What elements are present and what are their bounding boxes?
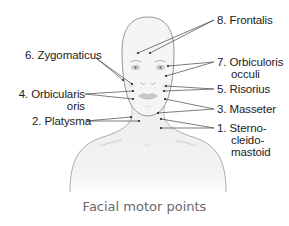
- point-masseter-2: [157, 112, 159, 114]
- point-sternocleidomastoid-1: [160, 118, 162, 120]
- label-platysma-text: 2. Platysma: [32, 115, 91, 127]
- label-orbicularis-oris-line1: 4. Orbicularis: [12, 88, 85, 100]
- label-risorius-text: 5. Risorius: [217, 83, 270, 95]
- point-masseter-1: [164, 98, 166, 100]
- point-sternocleidomastoid-2: [160, 127, 162, 129]
- label-orbicularis-oculi: 7. Orbiculoris occuli: [217, 56, 283, 80]
- label-frontalis-text: 8. Frontalis: [217, 14, 273, 26]
- label-zygomaticus: 6. Zygomaticus: [25, 49, 102, 61]
- label-masseter: 3. Masseter: [217, 103, 276, 115]
- label-zygomaticus-text: 6. Zygomaticus: [25, 49, 102, 61]
- point-frontalis-1: [137, 52, 139, 54]
- point-orbicularis-oris-2: [132, 98, 134, 100]
- label-sternocleidomastoid: 1. Sterno- cleido- mastoid: [217, 122, 271, 158]
- point-orbicularis-oris-1: [132, 90, 134, 92]
- point-platysma-1: [130, 116, 132, 118]
- point-risorius-2: [163, 90, 165, 92]
- point-risorius-1: [165, 85, 167, 87]
- point-zygomaticus-1: [122, 79, 124, 81]
- label-sternocleidomastoid-line2: cleido-: [217, 134, 271, 146]
- point-orbicularis-oculi-2: [165, 75, 167, 77]
- label-orbicularis-oris-line2: oris: [12, 100, 85, 112]
- point-frontalis-2: [149, 52, 151, 54]
- label-orbicularis-oris: 4. Orbicularis oris: [12, 88, 85, 112]
- point-orbicularis-oculi-1: [167, 65, 169, 67]
- label-risorius: 5. Risorius: [217, 83, 270, 95]
- label-sternocleidomastoid-line1: 1. Sterno-: [217, 122, 271, 134]
- head: [122, 17, 174, 116]
- facial-motor-points-figure: 8. Frontalis 7. Orbiculoris occuli 5. Ri…: [0, 0, 289, 226]
- label-orbicularis-oculi-line1: 7. Orbiculoris: [217, 56, 283, 68]
- figure-caption: Facial motor points: [0, 199, 289, 214]
- label-frontalis: 8. Frontalis: [217, 14, 273, 26]
- point-zygomaticus-2: [131, 83, 133, 85]
- label-masseter-text: 3. Masseter: [217, 103, 276, 115]
- label-orbicularis-oculi-line2: occuli: [217, 68, 283, 80]
- label-platysma: 2. Platysma: [32, 115, 91, 127]
- label-sternocleidomastoid-line3: mastoid: [217, 146, 271, 158]
- point-platysma-2: [138, 120, 140, 122]
